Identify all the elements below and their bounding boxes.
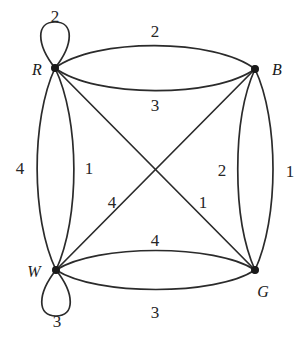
edge-w-g — [56, 251, 255, 271]
edge-weight-w-g-9: 3 — [151, 304, 160, 321]
edge-w-g — [56, 270, 255, 290]
vertex-label-b: B — [272, 62, 282, 78]
edge-b-g — [255, 69, 273, 270]
edge-weight-r-b-3: 3 — [151, 97, 160, 114]
vertex-label-r: R — [32, 62, 42, 78]
vertex-label-g: G — [257, 284, 269, 300]
edge-weight-b-w-10: 4 — [108, 194, 117, 211]
edge-r-w — [37, 68, 56, 270]
edge-weight-w-g-8: 4 — [151, 232, 160, 249]
vertex-dot-b — [252, 66, 259, 73]
edge-weight-b-g-6: 2 — [218, 162, 227, 179]
edge-r-b — [55, 46, 255, 69]
vertex-label-w: W — [27, 264, 40, 280]
edge-r-w — [55, 68, 74, 270]
graph-figure: RBWG 232341214341 — [0, 0, 305, 342]
edge-weight-b-g-7: 1 — [286, 163, 295, 180]
edge-b-g — [238, 69, 255, 270]
vertex-dot-r — [52, 65, 59, 72]
edge-weight-r-w-5: 1 — [85, 160, 94, 177]
edge-weight-r-r-0: 2 — [51, 8, 60, 25]
edge-w-w — [42, 270, 71, 316]
edges-group — [37, 22, 273, 316]
edge-r-b — [55, 68, 255, 91]
edge-weight-r-b-2: 2 — [151, 23, 160, 40]
edge-weight-r-g-11: 1 — [199, 194, 208, 211]
vertex-dot-g — [252, 267, 259, 274]
edge-weight-r-w-4: 4 — [16, 160, 25, 177]
edge-weight-w-w-1: 3 — [53, 313, 62, 330]
vertex-dot-w — [53, 267, 60, 274]
